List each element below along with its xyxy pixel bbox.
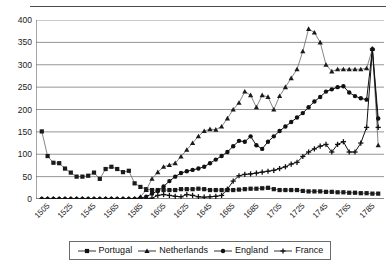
legend-swatch-square-icon <box>77 246 97 256</box>
square-marker <box>341 190 345 194</box>
data-point-square <box>347 191 351 195</box>
data-point-plus <box>283 164 288 169</box>
x-tick-label: 1785 <box>358 202 376 220</box>
circle-marker <box>272 134 276 138</box>
square-marker <box>336 190 340 194</box>
data-point-square <box>173 188 177 192</box>
data-point-square <box>98 177 102 181</box>
data-point-circle <box>272 134 276 138</box>
data-point-square <box>80 175 84 179</box>
square-marker <box>191 187 195 191</box>
data-point-square <box>92 170 96 174</box>
square-marker <box>51 161 55 165</box>
circle-marker <box>359 96 363 100</box>
data-point-square <box>220 188 224 192</box>
data-point-circle <box>295 115 299 119</box>
circle-marker <box>225 150 229 154</box>
data-point-plus <box>376 125 381 130</box>
data-point-circle <box>243 140 247 144</box>
data-point-square <box>208 188 212 192</box>
data-point-circle <box>301 111 305 115</box>
triangle-marker <box>364 66 369 71</box>
data-point-plus <box>207 194 212 199</box>
x-tick-label: 1625 <box>172 202 190 220</box>
data-point-plus <box>39 196 44 199</box>
circle-marker <box>202 165 206 169</box>
square-marker <box>376 192 380 196</box>
square-marker <box>266 186 270 190</box>
data-point-circle <box>185 169 189 173</box>
legend-item-portugal[interactable]: Portugal <box>77 246 133 256</box>
data-point-circle <box>324 89 328 93</box>
data-point-circle <box>221 248 225 252</box>
series-netherlands <box>39 26 381 199</box>
circle-marker <box>277 129 281 133</box>
data-point-square <box>318 189 322 193</box>
data-point-square <box>365 191 369 195</box>
data-point-plus <box>271 168 276 173</box>
circle-marker <box>190 168 194 172</box>
data-point-square <box>214 188 218 192</box>
data-point-triangle <box>312 30 317 35</box>
data-point-square <box>127 169 131 173</box>
data-point-plus <box>51 196 56 199</box>
data-point-plus <box>80 196 85 199</box>
data-point-triangle <box>294 67 299 72</box>
legend-item-france[interactable]: France <box>273 246 323 256</box>
triangle-marker <box>254 105 259 110</box>
x-tick-label: 1645 <box>196 202 214 220</box>
circle-marker <box>150 191 154 195</box>
data-point-plus <box>167 193 172 198</box>
square-marker <box>104 167 108 171</box>
chart-legend: PortugalNetherlandsEnglandFrance <box>69 241 331 260</box>
data-point-square <box>301 189 305 193</box>
data-point-circle <box>167 179 171 183</box>
triangle-marker <box>225 116 230 121</box>
data-point-plus <box>115 196 120 199</box>
x-tick-label: 1585 <box>126 202 144 220</box>
square-marker <box>330 190 334 194</box>
circle-marker <box>156 189 160 193</box>
data-point-circle <box>196 166 200 170</box>
x-tick-label: 1505 <box>33 202 51 220</box>
legend-item-england[interactable]: England <box>213 246 268 256</box>
data-point-plus <box>91 196 96 199</box>
data-point-triangle <box>248 93 253 98</box>
plot-svg <box>36 20 384 199</box>
legend-label: Netherlands <box>159 246 208 255</box>
data-point-circle <box>208 161 212 165</box>
data-point-plus <box>68 196 73 199</box>
data-point-square <box>57 161 61 165</box>
y-tick-label: 250 <box>6 83 32 92</box>
circle-marker <box>318 95 322 99</box>
data-point-plus <box>289 161 294 166</box>
data-point-square <box>121 170 125 174</box>
data-point-triangle <box>306 26 311 31</box>
data-point-plus <box>254 170 259 175</box>
square-marker <box>324 190 328 194</box>
circle-marker <box>341 84 345 88</box>
data-point-square <box>63 166 67 170</box>
data-point-square <box>272 187 276 191</box>
circle-marker <box>248 134 252 138</box>
data-point-square <box>336 190 340 194</box>
data-point-circle <box>306 105 310 109</box>
circle-marker <box>219 154 223 158</box>
data-point-triangle <box>207 127 212 132</box>
legend-swatch-circle-icon <box>213 246 233 256</box>
circle-marker <box>243 140 247 144</box>
data-point-plus <box>178 194 183 199</box>
legend-item-netherlands[interactable]: Netherlands <box>137 246 208 256</box>
data-point-triangle <box>254 105 259 110</box>
data-point-plus <box>281 248 286 253</box>
data-point-triangle <box>236 100 241 105</box>
y-axis-tick-labels: 050100150200250300350400 <box>4 20 32 199</box>
data-point-square <box>370 192 374 196</box>
x-tick-label: 1545 <box>80 202 98 220</box>
data-point-plus <box>86 196 91 199</box>
circle-marker <box>301 111 305 115</box>
circle-marker <box>295 115 299 119</box>
data-point-plus <box>62 196 67 199</box>
data-point-circle <box>161 184 165 188</box>
data-point-plus <box>277 166 282 171</box>
